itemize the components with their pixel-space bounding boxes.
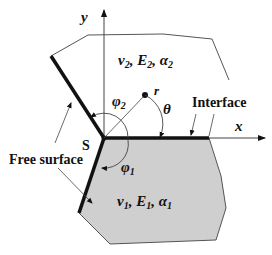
theta-arc [145,95,163,137]
phi2-label: φ2 [112,93,126,111]
interface-label: Interface [192,95,246,110]
y-axis-label: y [79,9,88,25]
wedge-diagram: y x S r θ Interface Free surface φ2 φ1 ν… [0,0,272,255]
free-surface-leader-upper [55,103,71,143]
material-2-properties: ν2, E2, α2 [118,52,173,70]
upper-free-surface-line [51,56,104,138]
free-surface-label: Free surface [9,152,83,167]
interface-leader-2 [209,114,214,136]
r-label: r [154,83,160,98]
x-axis-label: x [234,118,243,134]
material-1-region [79,138,226,244]
origin-label: S [82,138,90,153]
theta-label: θ [163,101,171,117]
interface-leader-1 [191,114,196,135]
